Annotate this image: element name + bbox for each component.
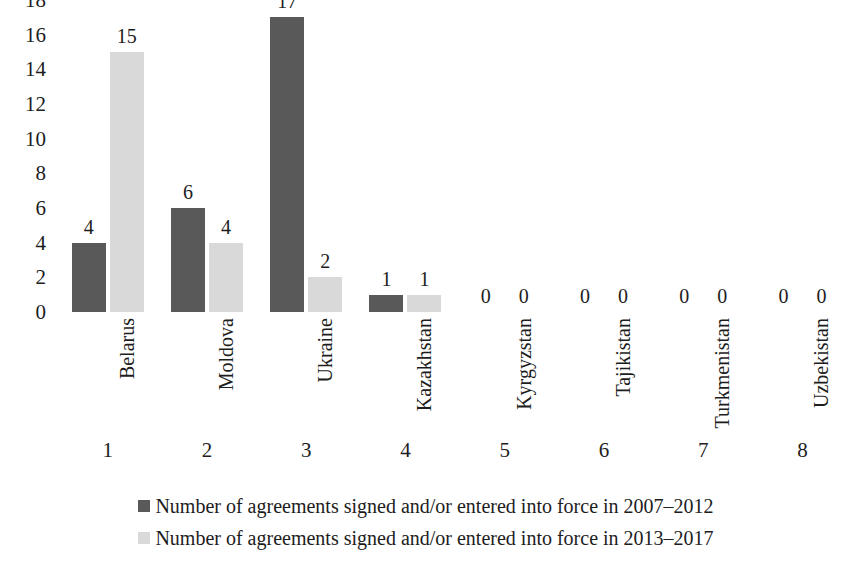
bar-item[interactable]: 0 xyxy=(766,0,800,312)
bar-pair: 64 xyxy=(157,0,256,312)
bar-pair: 172 xyxy=(257,0,356,312)
bar-item[interactable]: 0 xyxy=(568,0,602,312)
bar-value-label: 0 xyxy=(679,286,689,306)
bar-group: 00 xyxy=(554,0,653,312)
bar-item[interactable]: 15 xyxy=(110,0,144,312)
bar-rect[interactable] xyxy=(209,243,243,312)
bar-chart: 181614121086420 415641721100000000 Belar… xyxy=(0,0,852,572)
bar-value-label: 4 xyxy=(84,217,94,237)
y-axis-tick: 10 xyxy=(25,128,46,149)
bar-item[interactable]: 1 xyxy=(407,0,441,312)
bar-item[interactable]: 0 xyxy=(606,0,640,312)
bar-item[interactable]: 0 xyxy=(804,0,838,312)
bar-value-label: 0 xyxy=(481,286,491,306)
category-index: 8 xyxy=(797,440,808,461)
category-index: 7 xyxy=(698,440,709,461)
bar-item[interactable]: 0 xyxy=(469,0,503,312)
bar-pair: 415 xyxy=(58,0,157,312)
bar-group: 172 xyxy=(257,0,356,312)
bar-value-label: 0 xyxy=(519,286,529,306)
legend-label: Number of agreements signed and/or enter… xyxy=(155,526,713,550)
y-axis-tick: 6 xyxy=(36,198,47,219)
category-label: Moldova xyxy=(216,318,236,390)
bar-value-label: 1 xyxy=(381,269,391,289)
y-axis-tick: 0 xyxy=(36,302,47,323)
bar-rect[interactable] xyxy=(308,277,342,312)
y-axis-tick: 12 xyxy=(25,94,46,115)
y-axis: 181614121086420 xyxy=(0,0,58,320)
bar-item[interactable]: 4 xyxy=(72,0,106,312)
bar-item[interactable]: 2 xyxy=(308,0,342,312)
bar-item[interactable]: 6 xyxy=(171,0,205,312)
bar-item[interactable]: 17 xyxy=(270,0,304,312)
bar-item[interactable]: 0 xyxy=(667,0,701,312)
bar-rect[interactable] xyxy=(407,295,441,312)
legend-swatch-icon xyxy=(138,532,150,544)
bar-group: 00 xyxy=(753,0,852,312)
bar-group: 00 xyxy=(455,0,554,312)
bar-value-label: 15 xyxy=(117,26,137,46)
category-label: Belarus xyxy=(117,318,137,379)
legend-item[interactable]: Number of agreements signed and/or enter… xyxy=(138,526,713,550)
bar-value-label: 2 xyxy=(320,251,330,271)
bar-value-label: 1 xyxy=(419,269,429,289)
bar-item[interactable]: 1 xyxy=(369,0,403,312)
legend-label: Number of agreements signed and/or enter… xyxy=(155,494,713,518)
plot-area: 415641721100000000 xyxy=(58,0,852,312)
legend-item[interactable]: Number of agreements signed and/or enter… xyxy=(138,494,713,518)
bar-value-label: 4 xyxy=(221,217,231,237)
bar-group: 64 xyxy=(157,0,256,312)
bar-value-label: 0 xyxy=(580,286,590,306)
bar-group: 415 xyxy=(58,0,157,312)
category-index: 3 xyxy=(301,440,312,461)
legend: Number of agreements signed and/or enter… xyxy=(0,494,852,550)
category-label-row: BelarusMoldovaUkraineKazakhstanKyrgyzsta… xyxy=(58,312,852,440)
bar-value-label: 0 xyxy=(717,286,727,306)
y-axis-tick: 16 xyxy=(25,24,46,45)
bar-pair: 00 xyxy=(654,0,753,312)
category-index: 1 xyxy=(102,440,113,461)
category-label: Turkmenistan xyxy=(712,318,732,428)
category-label: Tajikistan xyxy=(613,318,633,397)
bar-value-label: 0 xyxy=(778,286,788,306)
category-index-row: 12345678 xyxy=(58,440,852,474)
category-label: Uzbekistan xyxy=(811,318,831,408)
bar-item[interactable]: 0 xyxy=(705,0,739,312)
bar-value-label: 0 xyxy=(816,286,826,306)
category-index: 6 xyxy=(599,440,610,461)
bar-item[interactable]: 0 xyxy=(507,0,541,312)
y-axis-tick: 2 xyxy=(36,267,47,288)
category-label: Ukraine xyxy=(315,318,335,382)
category-label: Kazakhstan xyxy=(414,318,434,411)
bar-value-label: 0 xyxy=(618,286,628,306)
bar-group: 00 xyxy=(654,0,753,312)
y-axis-tick: 18 xyxy=(25,0,46,11)
category-index: 4 xyxy=(400,440,411,461)
bar-pair: 00 xyxy=(554,0,653,312)
bar-rect[interactable] xyxy=(369,295,403,312)
category-index: 2 xyxy=(202,440,213,461)
bar-rect[interactable] xyxy=(72,243,106,312)
bar-rect[interactable] xyxy=(171,208,205,312)
bar-pair: 00 xyxy=(753,0,852,312)
y-axis-tick: 8 xyxy=(36,163,47,184)
bar-rect[interactable] xyxy=(270,17,304,312)
bar-rect[interactable] xyxy=(110,52,144,312)
bar-pair: 11 xyxy=(356,0,455,312)
bar-group: 11 xyxy=(356,0,455,312)
legend-swatch-icon xyxy=(138,500,150,512)
category-label: Kyrgyzstan xyxy=(514,318,534,410)
bar-pair: 00 xyxy=(455,0,554,312)
bar-value-label: 6 xyxy=(183,182,193,202)
y-axis-tick: 4 xyxy=(36,232,47,253)
category-index: 5 xyxy=(499,440,510,461)
bar-item[interactable]: 4 xyxy=(209,0,243,312)
bar-value-label: 17 xyxy=(277,0,297,11)
y-axis-tick: 14 xyxy=(25,59,46,80)
